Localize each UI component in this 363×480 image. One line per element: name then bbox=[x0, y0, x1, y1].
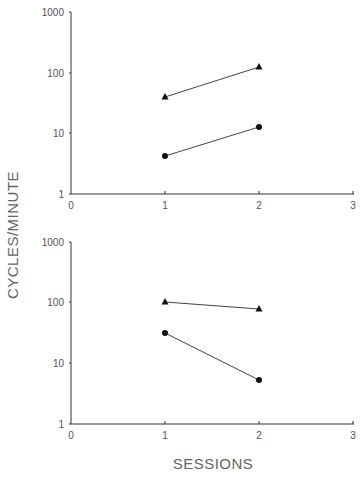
chart-figure: 1000 100 10 1 0 1 2 3 1000 100 10 1 0 1 … bbox=[0, 0, 363, 480]
top-circle-line bbox=[165, 127, 259, 156]
bottom-ytick-100: 100 bbox=[47, 297, 64, 308]
top-ytick-1: 1 bbox=[58, 189, 64, 200]
bottom-xtick-0: 0 bbox=[68, 430, 74, 441]
y-axis-title: CYCLES/MINUTE bbox=[4, 171, 21, 299]
bottom-panel: 1000 100 10 1 0 1 2 3 bbox=[42, 237, 356, 441]
bottom-ytick-1: 1 bbox=[58, 419, 64, 430]
x-axis-title: SESSIONS bbox=[173, 455, 254, 472]
top-ytick-1000: 1000 bbox=[42, 7, 65, 18]
bottom-circle-point-1 bbox=[162, 330, 168, 336]
top-xtick-3: 3 bbox=[350, 200, 356, 211]
bottom-xtick-2: 2 bbox=[256, 430, 262, 441]
top-triangle-point-2 bbox=[256, 63, 263, 70]
bottom-xtick-1: 1 bbox=[162, 430, 168, 441]
bottom-circle-point-2 bbox=[256, 377, 262, 383]
top-ytick-100: 100 bbox=[47, 68, 64, 79]
top-circle-point-1 bbox=[162, 153, 168, 159]
bottom-triangle-point-1 bbox=[162, 298, 169, 305]
top-xtick-0: 0 bbox=[68, 200, 74, 211]
bottom-triangle-point-2 bbox=[256, 305, 263, 312]
top-xtick-1: 1 bbox=[162, 200, 168, 211]
top-ytick-10: 10 bbox=[53, 128, 65, 139]
bottom-xtick-3: 3 bbox=[350, 430, 356, 441]
top-xtick-2: 2 bbox=[256, 200, 262, 211]
bottom-triangle-line bbox=[165, 302, 259, 309]
bottom-ytick-1000: 1000 bbox=[42, 237, 65, 248]
top-panel: 1000 100 10 1 0 1 2 3 bbox=[42, 7, 356, 211]
top-triangle-line bbox=[165, 67, 259, 97]
bottom-circle-line bbox=[165, 333, 259, 380]
top-circle-point-2 bbox=[256, 124, 262, 130]
bottom-ytick-10: 10 bbox=[53, 358, 65, 369]
